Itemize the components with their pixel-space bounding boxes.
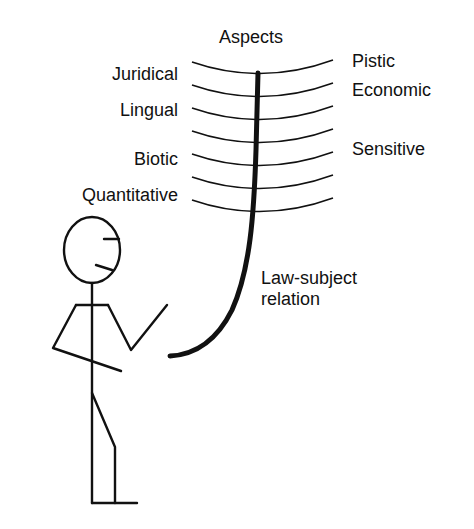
relation-label-line1: Law-subject bbox=[261, 268, 357, 288]
figure-right-arm bbox=[108, 305, 167, 350]
aspect-arc-2 bbox=[192, 83, 333, 97]
label-pistic: Pistic bbox=[352, 51, 395, 71]
aspect-arc-5 bbox=[192, 152, 333, 166]
aspect-arc-1 bbox=[192, 60, 333, 74]
figure-left-arm bbox=[53, 305, 121, 371]
label-quantitative: Quantitative bbox=[82, 185, 178, 205]
aspect-arcs bbox=[192, 60, 333, 212]
law-subject-relation-line bbox=[170, 73, 258, 356]
relation-label-line2: relation bbox=[261, 289, 320, 309]
figure-mouth bbox=[96, 265, 112, 270]
stick-figure bbox=[53, 217, 167, 503]
label-biotic: Biotic bbox=[134, 149, 178, 169]
figure-head bbox=[64, 217, 120, 283]
aspect-arc-4 bbox=[192, 129, 333, 143]
aspect-arc-3 bbox=[192, 106, 333, 120]
label-juridical: Juridical bbox=[112, 64, 178, 84]
aspects-title: Aspects bbox=[219, 27, 283, 47]
aspect-arc-6 bbox=[192, 175, 333, 189]
label-economic: Economic bbox=[352, 80, 431, 100]
label-lingual: Lingual bbox=[120, 100, 178, 120]
aspect-arc-7 bbox=[192, 198, 333, 212]
figure-leg bbox=[92, 393, 115, 503]
label-sensitive: Sensitive bbox=[352, 139, 425, 159]
